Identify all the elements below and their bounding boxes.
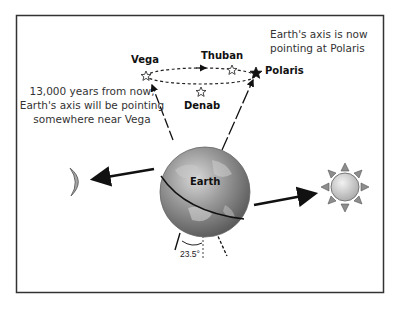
future-note-line-1: 13,000 years from now, [18,84,166,98]
polaris-star-icon [250,67,262,78]
arrow-to-moon [95,169,154,179]
arrow-to-sun [254,194,313,205]
sun-icon [321,163,369,212]
precession-diagram: Vega Thuban Denab Polaris Earth 23.5° 13… [0,0,399,310]
thuban-star-icon [227,65,237,74]
polaris-label: Polaris [265,65,304,76]
future-note-line-3: somewhere near Vega [18,112,166,126]
denab-label: Denab [184,100,220,111]
future-axis-note: 13,000 years from now, Earth's axis will… [18,84,166,126]
axis-lower-tilted [175,233,180,250]
earth-label: Earth [190,176,220,187]
current-axis-note: Earth's axis is now pointing at Polaris [270,27,368,55]
precession-circle [147,68,255,84]
tilt-angle-arc [182,241,202,245]
axis-to-polaris [222,80,253,150]
denab-star-icon [196,87,206,96]
vega-label: Vega [131,54,159,65]
current-note-line-1: Earth's axis is now [270,27,368,41]
thuban-label: Thuban [201,50,243,61]
tilt-angle-label: 23.5° [180,249,200,259]
earth-globe [160,147,250,237]
future-note-line-2: Earth's axis will be pointing [18,98,166,112]
current-note-line-2: pointing at Polaris [270,41,368,55]
moon-icon [70,168,78,196]
